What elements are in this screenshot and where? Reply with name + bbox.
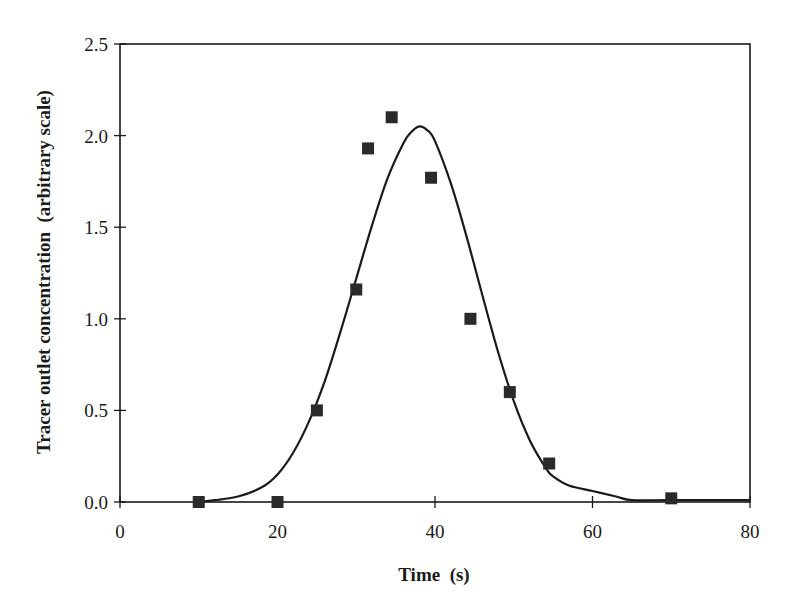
data-point-marker [425, 172, 437, 184]
data-point-marker [665, 492, 677, 504]
data-point-marker [504, 386, 516, 398]
y-tick-label: 1.0 [84, 309, 108, 330]
x-axis-title: Time (s) [398, 564, 469, 586]
data-point-marker [350, 283, 362, 295]
x-tick-label: 0 [115, 521, 125, 542]
x-tick-label: 80 [741, 521, 760, 542]
data-point-marker [272, 496, 284, 508]
y-tick-label: 2.0 [84, 126, 108, 147]
data-points [193, 111, 678, 508]
data-point-marker [543, 458, 555, 470]
plot-border [120, 44, 750, 502]
chart: 0.00.51.01.52.02.5 020406080 Time (s) Tr… [0, 0, 786, 614]
data-point-marker [362, 142, 374, 154]
data-point-marker [193, 496, 205, 508]
x-tick-label: 40 [426, 521, 445, 542]
y-tick-label: 0.0 [84, 492, 108, 513]
data-point-marker [311, 404, 323, 416]
y-tick-label: 0.5 [84, 400, 108, 421]
x-axis: 020406080 [115, 496, 759, 542]
x-tick-label: 60 [583, 521, 602, 542]
x-tick-label: 20 [268, 521, 287, 542]
y-tick-label: 1.5 [84, 217, 108, 238]
data-point-marker [386, 111, 398, 123]
data-point-marker [464, 313, 476, 325]
y-axis-title: Tracer outlet concentration (arbitrary s… [33, 90, 55, 454]
plot-frame [120, 44, 750, 502]
y-tick-label: 2.5 [84, 34, 108, 55]
